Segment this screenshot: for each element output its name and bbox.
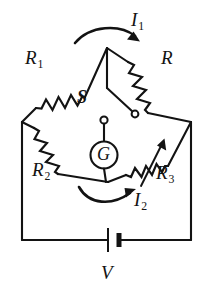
label-r2-symbol: R — [32, 159, 44, 180]
r2-lead-upper — [22, 122, 34, 128]
r3-lead-lower — [108, 175, 126, 182]
r-lead-upper — [107, 48, 128, 62]
circuit-diagram-figure: R1 R R2 R3 I1 I2 S G V — [0, 0, 212, 305]
switch-blade-terminal-dot — [132, 111, 139, 118]
label-r-symbol: R — [161, 47, 173, 68]
label-g-symbol: G — [97, 144, 110, 164]
label-v-symbol: V — [101, 262, 113, 283]
r-resistor-zigzag — [128, 62, 150, 113]
label-i1-symbol: I — [131, 9, 137, 30]
galvanometer-lower-lead — [104, 169, 106, 183]
r3-lead-upper — [168, 122, 191, 166]
label-r3-symbol: R — [156, 162, 168, 183]
label-i2-subscript: 2 — [141, 200, 147, 213]
r-lead-lower — [148, 113, 191, 122]
i1-current-arrow-curve — [75, 28, 135, 43]
label-i1-subscript: 1 — [138, 20, 144, 33]
i2-current-arrow-curve — [79, 187, 130, 202]
label-r2: R2 — [32, 160, 50, 179]
r1-lead-upper — [85, 48, 107, 97]
r2-lead-lower — [58, 174, 108, 182]
switch-contact-dot — [100, 116, 107, 123]
label-r3-subscript: 3 — [169, 173, 175, 186]
label-r3: R3 — [156, 163, 174, 182]
label-r: R — [161, 48, 173, 67]
label-v: V — [101, 263, 113, 282]
label-r1-subscript: 1 — [38, 58, 44, 71]
r1-lead-lower — [22, 108, 36, 122]
label-s-symbol: S — [77, 87, 87, 107]
label-i2: I2 — [134, 190, 146, 209]
label-r2-subscript: 2 — [45, 170, 51, 183]
label-r1: R1 — [25, 48, 43, 67]
label-r1-symbol: R — [25, 47, 37, 68]
switch-blade — [107, 88, 133, 112]
label-i2-symbol: I — [134, 189, 140, 210]
label-s: S — [77, 88, 87, 106]
label-g: G — [97, 145, 110, 163]
r3-variable-arrow-head — [157, 139, 166, 151]
label-i1: I1 — [131, 10, 143, 29]
